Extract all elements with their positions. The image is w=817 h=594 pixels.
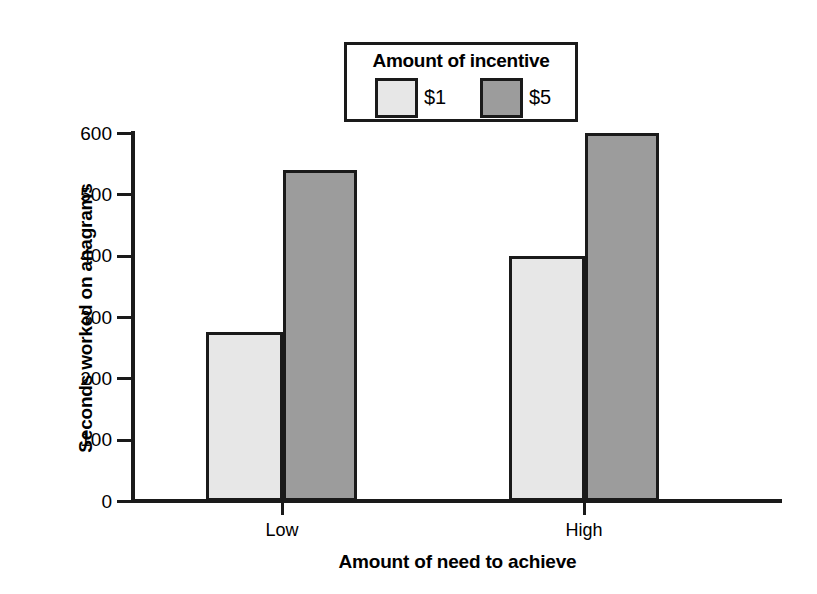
legend-swatch-1dollar: [375, 78, 418, 118]
y-tick-label-400: 400: [42, 246, 112, 265]
legend-label-1dollar: $1: [424, 86, 446, 108]
legend-title: Amount of incentive: [347, 50, 575, 72]
bar-high-1dollar: [509, 256, 585, 501]
x-tick-label-low: Low: [222, 520, 342, 540]
bar-chart-figure: Seconds worked on anagrams 600 500 400 3…: [0, 0, 817, 594]
bar-low-1dollar: [206, 332, 283, 501]
x-tick-mark-low: [281, 501, 284, 515]
y-tick-label-0: 0: [42, 492, 112, 511]
y-tick-mark-100: [117, 439, 132, 442]
y-tick-label-300: 300: [42, 308, 112, 327]
y-tick-label-200: 200: [42, 369, 112, 388]
x-axis-line: [131, 499, 782, 503]
y-tick-mark-200: [117, 377, 132, 380]
y-tick-label-100: 100: [42, 430, 112, 449]
y-tick-mark-300: [117, 316, 132, 319]
legend-swatch-5dollar: [480, 78, 523, 118]
y-tick-mark-500: [117, 193, 132, 196]
x-axis-title: Amount of need to achieve: [133, 551, 782, 573]
y-tick-label-600: 600: [42, 124, 112, 143]
x-tick-label-high: High: [524, 520, 644, 540]
bar-high-5dollar: [585, 133, 659, 501]
y-tick-mark-400: [117, 255, 132, 258]
legend-box: Amount of incentive $1 $5: [344, 42, 578, 122]
y-tick-label-500: 500: [42, 185, 112, 204]
legend-label-5dollar: $5: [529, 86, 551, 108]
y-tick-mark-0: [117, 500, 132, 503]
bar-low-5dollar: [283, 170, 357, 501]
x-tick-mark-high: [583, 501, 586, 515]
y-tick-mark-600: [117, 132, 132, 135]
y-axis-line: [131, 131, 135, 503]
